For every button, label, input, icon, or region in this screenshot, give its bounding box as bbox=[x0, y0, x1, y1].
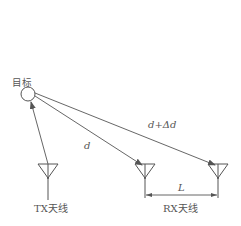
target-label: 目标 bbox=[12, 78, 32, 88]
path-d-arrow bbox=[35, 96, 142, 165]
baseline-dimension bbox=[146, 193, 217, 197]
rx2-antenna-icon bbox=[208, 164, 228, 198]
rx-antenna-label: RX天线 bbox=[163, 204, 198, 214]
diagram-canvas: 目标 d d+Δd L TX天线 RX天线 bbox=[0, 0, 241, 226]
path-d-label: d bbox=[84, 141, 90, 151]
tx-to-target-arrow bbox=[31, 102, 48, 164]
tx-antenna-label: TX天线 bbox=[34, 204, 68, 214]
rx1-antenna-icon bbox=[135, 164, 155, 198]
target-circle bbox=[21, 87, 35, 101]
diagram-svg bbox=[0, 0, 241, 226]
baseline-label: L bbox=[178, 183, 185, 193]
tx-antenna-icon bbox=[38, 164, 58, 200]
path-d-delta-label: d+Δd bbox=[148, 120, 176, 130]
